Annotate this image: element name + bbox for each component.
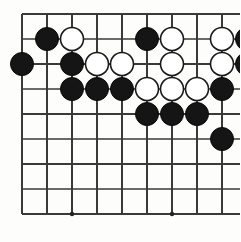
black-stone[interactable] <box>211 78 234 101</box>
white-stone[interactable] <box>161 28 184 51</box>
black-stone[interactable] <box>136 28 159 51</box>
white-stone[interactable] <box>136 78 159 101</box>
star-point <box>170 212 174 216</box>
black-stone[interactable] <box>61 78 84 101</box>
black-stone[interactable] <box>36 28 59 51</box>
black-stone[interactable] <box>11 53 34 76</box>
black-stone[interactable] <box>161 103 184 126</box>
go-board[interactable] <box>0 0 240 242</box>
black-stone[interactable] <box>111 78 134 101</box>
white-stone[interactable] <box>161 78 184 101</box>
black-stone[interactable] <box>211 128 234 151</box>
white-stone[interactable] <box>86 53 109 76</box>
star-point <box>70 212 74 216</box>
white-stone[interactable] <box>161 53 184 76</box>
white-stone[interactable] <box>211 53 234 76</box>
black-stone[interactable] <box>236 28 241 51</box>
black-stone[interactable] <box>236 53 241 76</box>
white-stone[interactable] <box>111 53 134 76</box>
white-stone[interactable] <box>186 78 209 101</box>
black-stone[interactable] <box>136 103 159 126</box>
black-stone[interactable] <box>86 78 109 101</box>
black-stone[interactable] <box>61 53 84 76</box>
go-board-figure: Go board position <box>0 0 240 242</box>
black-stone[interactable] <box>186 103 209 126</box>
white-stone[interactable] <box>61 28 84 51</box>
white-stone[interactable] <box>211 28 234 51</box>
